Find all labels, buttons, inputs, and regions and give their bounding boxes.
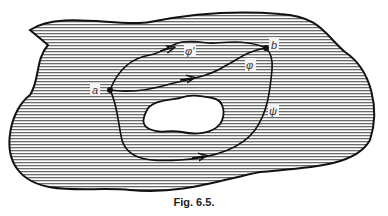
label-b: b: [271, 39, 277, 51]
figure-caption: Fig. 6.5.: [0, 196, 388, 208]
label-phi-prime-group: φ': [184, 44, 196, 57]
label-psi: ψ: [269, 105, 277, 117]
label-psi-group: ψ: [268, 104, 279, 117]
point-b: [263, 45, 269, 51]
label-b-group: b: [269, 37, 279, 51]
point-a: [107, 87, 113, 93]
label-a-group: a: [90, 83, 100, 96]
label-a: a: [92, 84, 98, 96]
diagram-figure: a b φ' φ ψ: [0, 0, 388, 216]
label-phi-prime: φ': [185, 45, 195, 57]
label-phi-group: φ: [245, 58, 256, 71]
label-phi: φ: [246, 59, 253, 71]
